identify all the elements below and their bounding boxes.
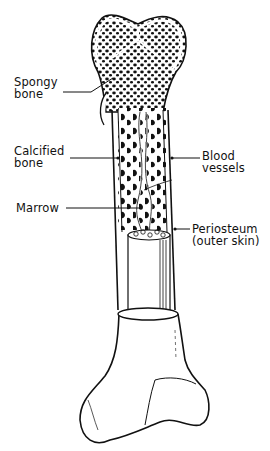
label-spongy-bone-line2: bone (14, 88, 58, 100)
label-calcified-bone-line2: bone (14, 157, 64, 169)
label-marrow: Marrow (16, 202, 59, 214)
label-periosteum: Periosteum (outer skin) (192, 223, 260, 247)
label-periosteum-line2: (outer skin) (192, 235, 260, 247)
bone-lower-end (80, 308, 209, 443)
label-spongy-bone: Spongy bone (14, 76, 58, 100)
label-marrow-line1: Marrow (16, 202, 59, 214)
label-blood-vessels-line2: vessels (202, 162, 245, 174)
marrow-cylinder (128, 230, 170, 313)
label-blood-vessels: Blood vessels (202, 150, 245, 174)
label-calcified-bone: Calcified bone (14, 145, 64, 169)
